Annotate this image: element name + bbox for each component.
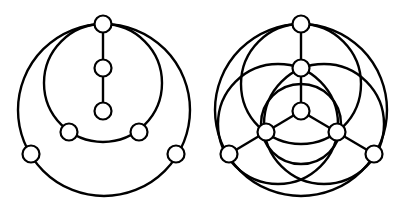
- graph-node: [329, 124, 346, 141]
- graph-node: [23, 146, 40, 163]
- graph-node: [131, 124, 148, 141]
- right-graph: [215, 16, 387, 197]
- graph-node: [221, 146, 238, 163]
- graph-node: [293, 16, 310, 33]
- graph-node: [258, 124, 275, 141]
- graph-node: [168, 146, 185, 163]
- graph-node: [95, 16, 112, 33]
- diagram-canvas: [0, 0, 406, 206]
- graph-node: [366, 146, 383, 163]
- graph-node: [61, 124, 78, 141]
- graph-node: [95, 60, 112, 77]
- left-graph: [18, 16, 190, 197]
- graph-node: [293, 103, 310, 120]
- graph-node: [95, 103, 112, 120]
- graph-node: [293, 60, 310, 77]
